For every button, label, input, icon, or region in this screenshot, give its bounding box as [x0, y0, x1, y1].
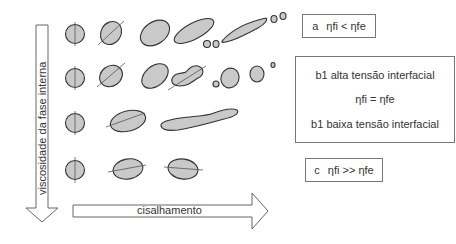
shear-arrow: cisalhamento	[73, 193, 268, 229]
case-a-relation: ηfi < ηfe	[326, 20, 365, 32]
droplet	[161, 109, 238, 130]
viscosity-arrow: viscosidade da fase interna	[26, 25, 58, 222]
row-c-droplets	[66, 157, 204, 183]
droplet	[66, 22, 85, 46]
satellite-droplet	[204, 41, 220, 48]
droplet	[168, 66, 206, 90]
droplet	[164, 157, 203, 181]
satellite-droplet	[213, 81, 219, 87]
case-c-relation: ηfi >> ηfe	[328, 164, 374, 176]
droplet	[222, 18, 267, 42]
droplet	[66, 66, 85, 90]
case-b-relation: ηfi = ηfe	[355, 93, 394, 105]
droplet	[95, 61, 126, 91]
viscosity-axis-label: viscosidade da fase interna	[36, 61, 48, 195]
droplet	[250, 66, 264, 82]
satellite-droplet	[271, 63, 275, 68]
droplet	[106, 107, 148, 136]
case-b-high-tension: b1 alta tensão interfacial	[315, 69, 434, 81]
case-c-label: c	[314, 164, 320, 176]
row-b1-low-droplets	[66, 107, 238, 136]
droplet	[218, 66, 242, 91]
shear-axis-label: cisalhamento	[137, 204, 202, 216]
case-c-box: c ηfi >> ηfe	[305, 158, 383, 182]
droplet	[96, 18, 125, 49]
case-a-label: a	[312, 20, 318, 32]
case-b-low-tension: b1 baixa tensão interfacial	[311, 118, 439, 130]
row-b1-high-droplets	[66, 59, 276, 94]
droplet	[66, 111, 85, 135]
row-a-droplets	[66, 13, 287, 52]
droplet	[137, 59, 173, 94]
droplet	[136, 15, 175, 51]
droplet	[66, 157, 85, 183]
case-a-box: a ηfi < ηfe	[302, 14, 376, 38]
satellite-droplet	[271, 13, 286, 23]
droplet	[108, 157, 146, 182]
case-b-box: b1 alta tensão interfacial ηfi = ηfe b1 …	[295, 56, 455, 143]
